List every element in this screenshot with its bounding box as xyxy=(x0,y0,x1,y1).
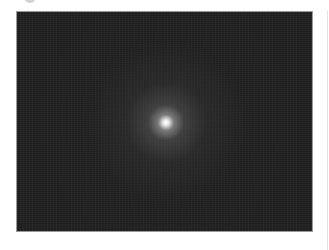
page: bright glowing point on dark noisy backg… xyxy=(0,0,329,250)
photo xyxy=(17,12,312,231)
photo-frame: bright glowing point on dark noisy backg… xyxy=(16,11,313,232)
vertical-divider xyxy=(327,11,328,250)
partial-circle-icon xyxy=(24,0,36,3)
